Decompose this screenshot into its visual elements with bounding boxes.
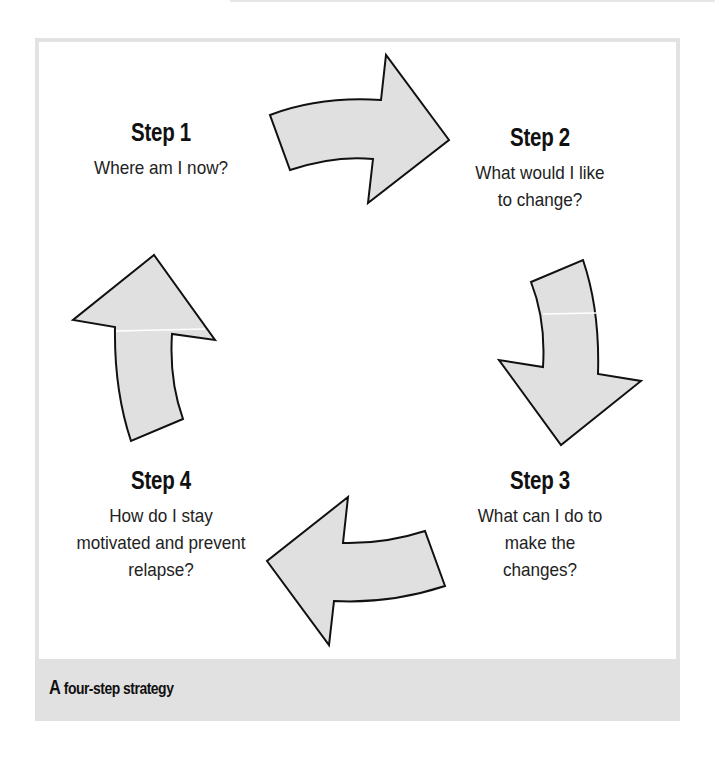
- arrow-right-icon: [270, 55, 449, 203]
- step-2-text: What would I like to change?: [473, 159, 608, 213]
- step-3-text: What can I do to make the changes?: [473, 502, 608, 583]
- step-1-title: Step 1: [71, 118, 251, 146]
- caption-lead: A: [49, 676, 60, 698]
- step-3-title: Step 3: [450, 466, 630, 494]
- arrow-left-icon: [267, 497, 445, 645]
- step-1: Step 1 Where am I now?: [51, 118, 271, 181]
- arrow-up-icon: [73, 255, 215, 441]
- step-4-title: Step 4: [71, 466, 251, 494]
- step-4-text: How do I stay motivated and prevent rela…: [76, 502, 247, 583]
- arrow-down-icon: [499, 260, 641, 445]
- step-4: Step 4 How do I stay motivated and preve…: [51, 466, 271, 583]
- step-1-text: Where am I now?: [62, 154, 260, 181]
- step-2-title: Step 2: [450, 123, 630, 151]
- step-2: Step 2 What would I like to change?: [430, 123, 650, 213]
- caption-rest: four-step strategy: [60, 679, 173, 698]
- figure-caption: A four-step strategy: [49, 676, 173, 699]
- step-3: Step 3 What can I do to make the changes…: [430, 466, 650, 583]
- caption-band: A four-step strategy: [35, 659, 680, 721]
- cycle-arrows: [0, 0, 715, 762]
